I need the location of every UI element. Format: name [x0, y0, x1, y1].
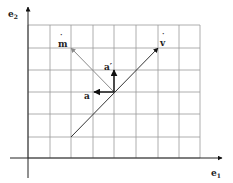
vector-a-label: a [84, 91, 90, 101]
e1-axis-label: e1 [211, 168, 221, 179]
axes: e1 e2 [8, 7, 222, 179]
vector-diagram: e1 e2 v˙m˙aa′ [0, 0, 233, 183]
vector-v-dot-accent: ˙ [161, 32, 166, 42]
vector-a-prime-label: a′ [104, 62, 113, 72]
vector-a: a [84, 91, 114, 101]
e2-axis-label: e2 [8, 9, 18, 20]
vector-m-dot-accent: ˙ [59, 33, 64, 43]
